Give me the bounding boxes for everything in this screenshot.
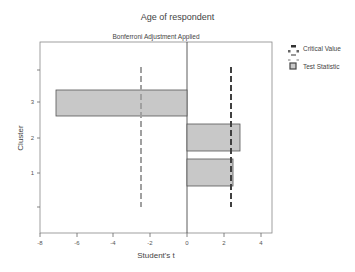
bar-cluster-1 (187, 159, 233, 186)
legend-critical-value: Critical Value (303, 45, 341, 52)
chart-plot: 3 2 1 -8 -6 -4 -2 0 2 4 Student's t Clus… (0, 0, 355, 272)
legend-test-statistic-swatch (290, 63, 296, 69)
x-tick-neg2: -2 (147, 240, 153, 246)
x-axis-label: Student's t (137, 251, 175, 260)
x-tick-neg6: -6 (74, 240, 80, 246)
y-axis-ticks (37, 70, 40, 207)
bar-cluster-3 (56, 90, 187, 116)
x-tick-0: 0 (185, 240, 189, 246)
x-tick-neg4: -4 (110, 240, 116, 246)
legend: Critical Value Test Statistic (288, 45, 341, 70)
legend-critical-dash-top (291, 45, 296, 48)
y-tick-1: 1 (31, 170, 35, 176)
x-axis-ticks (40, 233, 261, 237)
y-tick-2: 2 (31, 135, 35, 141)
y-axis-label: Cluster (16, 125, 25, 151)
y-tick-3: 3 (31, 99, 35, 105)
x-tick-neg8: -8 (37, 240, 43, 246)
x-tick-4: 4 (259, 240, 263, 246)
bar-cluster-2 (187, 124, 240, 151)
x-tick-2: 2 (222, 240, 226, 246)
legend-test-statistic: Test Statistic (303, 63, 340, 70)
